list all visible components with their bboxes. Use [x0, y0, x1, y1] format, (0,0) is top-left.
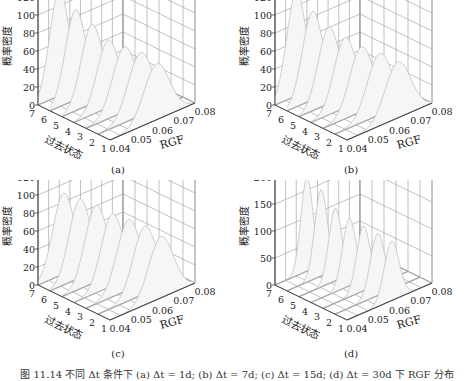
svg-text:120: 120 — [17, 180, 35, 183]
svg-text:6: 6 — [278, 294, 284, 305]
svg-text:60: 60 — [23, 226, 35, 237]
chart-panel-c: 0204060801001200.040.050.060.070.0812345… — [0, 180, 237, 360]
svg-text:0.05: 0.05 — [368, 134, 389, 145]
svg-text:0.06: 0.06 — [389, 125, 410, 136]
svg-text:1: 1 — [101, 323, 107, 334]
svg-text:0.06: 0.06 — [152, 125, 173, 136]
svg-text:1: 1 — [338, 323, 344, 334]
svg-text:0.08: 0.08 — [194, 106, 215, 117]
svg-text:0.06: 0.06 — [152, 305, 173, 316]
svg-text:0.04: 0.04 — [346, 143, 367, 154]
svg-text:80: 80 — [23, 28, 35, 39]
surface-plot-b: 0204060801001200.040.050.060.070.0812345… — [237, 0, 474, 165]
svg-text:0.04: 0.04 — [346, 323, 367, 334]
svg-text:4: 4 — [65, 126, 71, 137]
svg-text:100: 100 — [17, 10, 35, 21]
svg-text:4: 4 — [302, 306, 308, 317]
svg-text:2: 2 — [89, 137, 95, 148]
svg-text:3: 3 — [77, 311, 83, 322]
svg-text:7: 7 — [29, 288, 35, 299]
svg-text:0.05: 0.05 — [131, 314, 152, 325]
svg-text:20: 20 — [23, 82, 35, 93]
svg-text:0.07: 0.07 — [173, 295, 194, 306]
svg-text:0.08: 0.08 — [431, 106, 452, 117]
svg-text:80: 80 — [23, 208, 35, 219]
svg-text:0.07: 0.07 — [410, 295, 431, 306]
svg-text:概率密度: 概率密度 — [238, 206, 250, 246]
svg-text:0.06: 0.06 — [389, 305, 410, 316]
svg-text:100: 100 — [254, 226, 272, 237]
svg-text:7: 7 — [266, 108, 272, 119]
figure-caption: 图 11.14 不同 Δt 条件下 (a) Δt = 1d; (b) Δt = … — [0, 366, 474, 381]
panel-label-c: (c) — [88, 348, 148, 359]
svg-text:概率密度: 概率密度 — [238, 26, 250, 66]
svg-text:120: 120 — [17, 0, 35, 3]
svg-text:20: 20 — [23, 262, 35, 273]
svg-text:概率密度: 概率密度 — [1, 206, 13, 246]
svg-text:6: 6 — [278, 114, 284, 125]
svg-text:6: 6 — [41, 294, 47, 305]
svg-text:5: 5 — [53, 300, 59, 311]
svg-text:200: 200 — [254, 180, 272, 183]
svg-text:20: 20 — [260, 82, 272, 93]
panel-label-d: (d) — [321, 348, 381, 359]
svg-text:40: 40 — [23, 244, 35, 255]
svg-text:0.08: 0.08 — [431, 286, 452, 297]
svg-text:100: 100 — [254, 10, 272, 21]
svg-text:1: 1 — [338, 143, 344, 154]
svg-text:3: 3 — [314, 311, 320, 322]
svg-text:2: 2 — [89, 317, 95, 328]
svg-text:120: 120 — [254, 0, 272, 3]
svg-text:RGF: RGF — [395, 133, 423, 152]
svg-text:0.07: 0.07 — [173, 115, 194, 126]
surface-plot-d: 0501001502000.040.050.060.070.081234567R… — [237, 180, 474, 345]
svg-text:0.04: 0.04 — [109, 323, 130, 334]
svg-text:5: 5 — [53, 120, 59, 131]
svg-text:0.05: 0.05 — [368, 314, 389, 325]
svg-text:0.07: 0.07 — [410, 115, 431, 126]
svg-text:100: 100 — [17, 190, 35, 201]
svg-text:2: 2 — [326, 317, 332, 328]
svg-text:50: 50 — [260, 253, 272, 264]
surface-plot-a: 0204060801001200.040.050.060.070.0812345… — [0, 0, 237, 165]
svg-text:60: 60 — [260, 46, 272, 57]
svg-text:6: 6 — [41, 114, 47, 125]
chart-panel-b: 0204060801001200.040.050.060.070.0812345… — [237, 0, 474, 180]
svg-text:40: 40 — [23, 64, 35, 75]
svg-text:RGF: RGF — [158, 133, 186, 152]
svg-text:80: 80 — [260, 28, 272, 39]
svg-text:RGF: RGF — [158, 313, 186, 332]
svg-text:5: 5 — [290, 120, 296, 131]
svg-text:概率密度: 概率密度 — [1, 26, 13, 66]
panel-label-a: (a) — [88, 164, 148, 175]
svg-text:40: 40 — [260, 64, 272, 75]
chart-panel-a: 0204060801001200.040.050.060.070.0812345… — [0, 0, 237, 180]
svg-text:0.08: 0.08 — [194, 286, 215, 297]
svg-text:0.04: 0.04 — [109, 143, 130, 154]
svg-text:7: 7 — [29, 108, 35, 119]
surface-plot-c: 0204060801001200.040.050.060.070.0812345… — [0, 180, 237, 345]
svg-text:RGF: RGF — [395, 313, 423, 332]
svg-text:4: 4 — [302, 126, 308, 137]
chart-panel-d: 0501001502000.040.050.060.070.081234567R… — [237, 180, 474, 360]
svg-text:5: 5 — [290, 300, 296, 311]
svg-text:1: 1 — [101, 143, 107, 154]
svg-text:0.05: 0.05 — [131, 134, 152, 145]
svg-text:7: 7 — [266, 288, 272, 299]
svg-text:4: 4 — [65, 306, 71, 317]
svg-text:3: 3 — [314, 131, 320, 142]
svg-text:2: 2 — [326, 137, 332, 148]
panel-label-b: (b) — [321, 164, 381, 175]
svg-text:150: 150 — [254, 199, 272, 210]
svg-text:60: 60 — [23, 46, 35, 57]
svg-text:3: 3 — [77, 131, 83, 142]
